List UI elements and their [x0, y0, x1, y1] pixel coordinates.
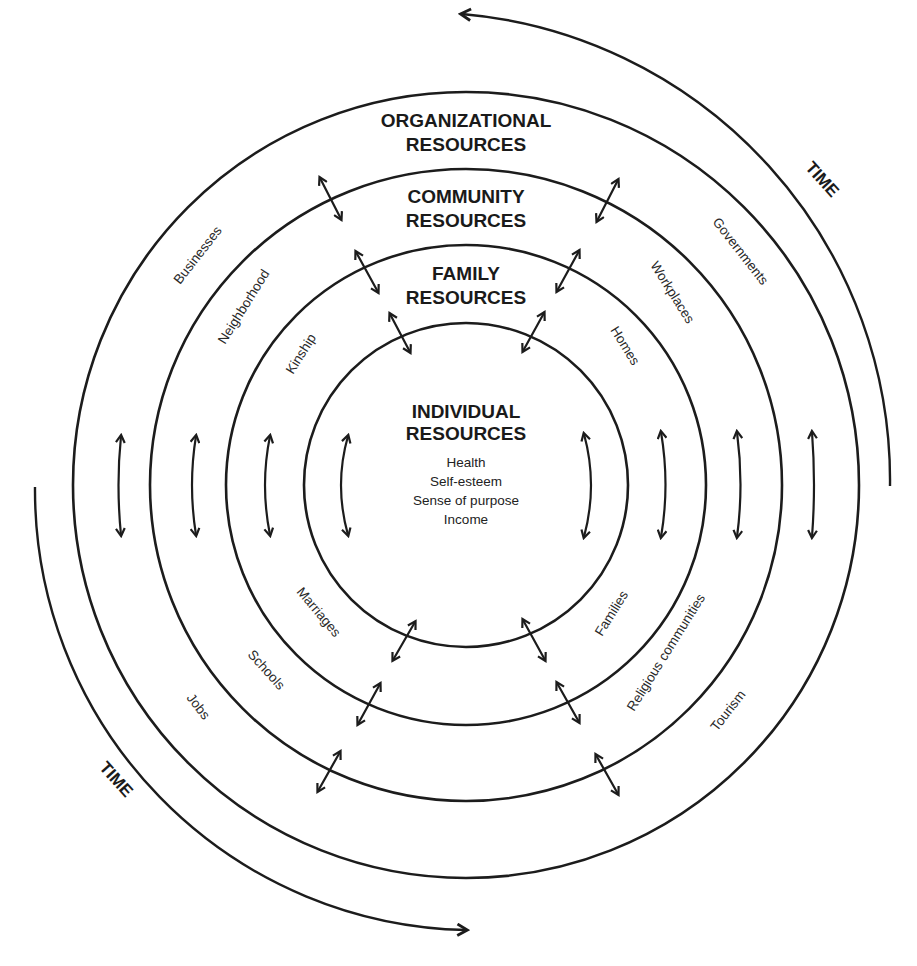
double-arrow-icon [523, 620, 545, 660]
double-arrow-icon [812, 432, 814, 537]
community-title-line1: COMMUNITY [407, 186, 524, 207]
double-arrow-icon [318, 752, 340, 791]
family-title-line2: RESOURCES [406, 287, 526, 308]
double-arrow-icon [341, 436, 348, 535]
double-arrow-icon [358, 684, 380, 724]
community-title-line2: RESOURCES [406, 210, 526, 231]
double-arrow-icon [584, 434, 591, 537]
individual-title-line2: RESOURCES [406, 423, 526, 444]
double-arrow-icon [597, 180, 618, 221]
organizational-example: Tourism [708, 687, 749, 733]
organizational-title-line2: RESOURCES [406, 134, 526, 155]
individual-title-line1: INDIVIDUAL [412, 401, 521, 422]
family-title-line1: FAMILY [432, 263, 500, 284]
individual-item: Income [444, 512, 488, 527]
double-arrow-icon [119, 436, 122, 535]
double-arrow-icon [523, 313, 544, 351]
family-example: Marriages [294, 584, 344, 640]
community-example: Schools [245, 647, 288, 693]
individual-item: Sense of purpose [413, 493, 519, 508]
family-example: Homes [607, 324, 643, 368]
family-example: Kinship [283, 331, 319, 377]
resources-diagram: TIME TIME ORGANIZATIONAL RESOURCES COMMU… [0, 0, 917, 966]
organizational-title-line1: ORGANIZATIONAL [381, 110, 552, 131]
community-example: Neighborhood [215, 267, 273, 347]
organizational-example: Businesses [171, 223, 225, 287]
double-arrow-icon [356, 252, 378, 292]
individual-item: Self-esteem [430, 474, 502, 489]
organizational-example: Jobs [184, 691, 214, 723]
double-arrow-icon [265, 436, 270, 535]
double-arrow-icon [661, 432, 666, 537]
double-arrow-icon [596, 755, 618, 794]
family-example: Families [592, 588, 631, 639]
double-arrow-icon [737, 432, 741, 537]
time-label-top: TIME [801, 158, 842, 201]
individual-item: Health [446, 455, 485, 470]
double-arrow-icon [192, 436, 196, 535]
community-example: Workplaces [647, 259, 697, 327]
double-arrow-icon [320, 178, 341, 219]
double-arrow-icon [393, 622, 415, 660]
time-arc-bottom [35, 487, 466, 930]
double-arrow-icon [557, 683, 579, 722]
